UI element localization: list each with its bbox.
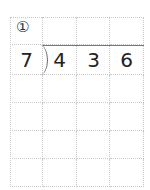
grid-cell xyxy=(43,75,77,103)
grid-cell xyxy=(10,75,43,103)
divisor-digit: 7 xyxy=(10,50,43,70)
grid-cell xyxy=(43,159,77,187)
grid-cell xyxy=(110,159,144,187)
grid-cell xyxy=(110,131,144,159)
grid-cell xyxy=(10,131,43,159)
dividend-digit-tens: 3 xyxy=(77,50,110,70)
grid-cell xyxy=(110,103,144,131)
problem-number-label: ① xyxy=(16,20,29,35)
grid-cell xyxy=(77,159,110,187)
grid-cell xyxy=(77,131,110,159)
grid-cell xyxy=(43,17,77,45)
grid-cell xyxy=(77,17,110,45)
dividend-digit-ones: 6 xyxy=(110,50,143,70)
grid-cell xyxy=(43,131,77,159)
grid-cell xyxy=(110,17,144,45)
division-grid: ① 7 4 3 6 xyxy=(10,17,144,187)
grid-cell xyxy=(77,103,110,131)
grid-cell xyxy=(77,75,110,103)
division-bar xyxy=(43,45,144,46)
grid-cell xyxy=(10,103,43,131)
grid-cell xyxy=(10,159,43,187)
grid-cell xyxy=(43,103,77,131)
grid-cell xyxy=(110,75,144,103)
dividend-digit-hundreds: 4 xyxy=(43,50,76,70)
